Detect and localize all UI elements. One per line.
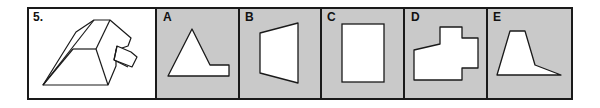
question-number: 5. [33, 10, 43, 24]
option-a-label: A [163, 10, 172, 24]
puzzle-strip: 5. A B C D E [0, 0, 600, 108]
option-b-shape [260, 23, 298, 83]
option-d-label: D [411, 10, 420, 24]
option-c-label: C [327, 10, 336, 24]
option-e-label: E [493, 10, 501, 24]
option-c-shape [342, 24, 384, 82]
option-b-label: B [245, 10, 254, 24]
